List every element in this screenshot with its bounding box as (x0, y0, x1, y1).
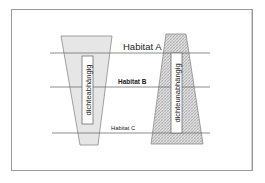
density-dependent-label: dichteabhängig (84, 65, 93, 116)
habitat-c-label: Habitat C (111, 125, 135, 131)
density-independent-label: dichteunabhängig (173, 63, 182, 122)
habitat-b-label: Habitat B (118, 78, 147, 85)
habitat-a-label: Habitat A (123, 41, 162, 52)
habitat-density-diagram: dichteabhängig dichteunabhängig Habitat … (0, 0, 265, 183)
